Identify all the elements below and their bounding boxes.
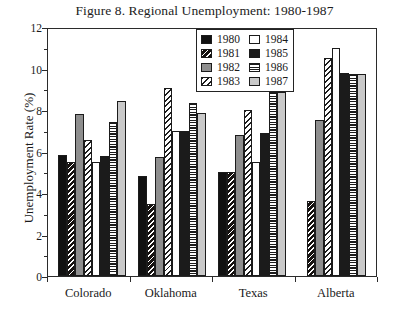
bar (277, 92, 285, 276)
legend-item-1985[interactable]: 1985 (249, 47, 288, 60)
legend-label: 1980 (217, 34, 240, 46)
bar (260, 133, 268, 276)
bar (252, 162, 260, 276)
x-tick-mark (130, 277, 131, 282)
x-tick-label: Oklahoma (130, 286, 213, 301)
bar (269, 92, 277, 276)
bar (349, 74, 357, 276)
legend-item-1987[interactable]: 1987 (249, 75, 288, 88)
bar (109, 122, 117, 276)
bar-group (292, 29, 372, 276)
legend-label: 1984 (265, 34, 288, 46)
x-tick-mark (377, 277, 378, 282)
x-axis: ColoradoOklahomaTexasAlberta (47, 277, 377, 311)
y-tick-label: 10 (31, 64, 43, 76)
x-tick-label: Colorado (47, 286, 130, 301)
legend-label: 1982 (217, 62, 240, 74)
bar (67, 162, 75, 276)
bar (147, 204, 155, 276)
bar (235, 135, 243, 276)
figure-container: Figure 8. Regional Unemployment: 1980-19… (0, 0, 409, 315)
bar (75, 114, 83, 276)
y-axis: 024681012 (0, 28, 47, 277)
chart-title: Figure 8. Regional Unemployment: 1980-19… (0, 3, 409, 19)
bar (84, 140, 92, 276)
y-tick-label: 12 (31, 22, 43, 34)
bar (117, 101, 125, 276)
legend-label: 1987 (265, 76, 288, 88)
legend-swatch-1985 (249, 49, 260, 59)
bar (100, 156, 108, 276)
legend-item-1984[interactable]: 1984 (249, 33, 288, 46)
legend-item-1980[interactable]: 1980 (201, 33, 240, 46)
legend-swatch-1986 (249, 63, 260, 73)
bar (164, 88, 172, 276)
legend[interactable]: 1980198119821983 1984198519861987 (196, 29, 294, 92)
bar (324, 58, 332, 276)
x-axis-tick-labels: ColoradoOklahomaTexasAlberta (47, 286, 377, 301)
y-tick-label: 2 (36, 230, 42, 242)
bar (189, 103, 197, 276)
bar (138, 176, 146, 276)
bar (244, 110, 252, 276)
x-tick-label: Texas (212, 286, 295, 301)
legend-item-1982[interactable]: 1982 (201, 61, 240, 74)
bar (197, 113, 205, 276)
y-tick-label: 6 (36, 147, 42, 159)
legend-item-1986[interactable]: 1986 (249, 61, 288, 74)
legend-swatch-1982 (201, 63, 212, 73)
legend-item-1981[interactable]: 1981 (201, 47, 240, 60)
bar (227, 172, 235, 276)
legend-column-left: 1980198119821983 (201, 33, 240, 88)
bar (172, 131, 180, 276)
legend-label: 1985 (265, 48, 288, 60)
bar (155, 157, 163, 276)
bar (332, 48, 340, 276)
legend-label: 1981 (217, 48, 240, 60)
bar (180, 131, 188, 276)
legend-swatch-1983 (201, 77, 212, 87)
legend-item-1983[interactable]: 1983 (201, 75, 240, 88)
bar (92, 162, 100, 276)
bar (307, 201, 315, 276)
x-tick-mark (212, 277, 213, 282)
legend-column-right: 1984198519861987 (249, 33, 288, 88)
legend-label: 1986 (265, 62, 288, 74)
y-tick-label: 0 (36, 271, 42, 283)
legend-swatch-1984 (249, 35, 260, 45)
bar-group (52, 29, 132, 276)
legend-swatch-1981 (201, 49, 212, 59)
bar (58, 155, 66, 276)
legend-label: 1983 (217, 76, 240, 88)
x-tick-mark (47, 277, 48, 282)
y-tick-label: 4 (36, 188, 42, 200)
x-tick-mark (295, 277, 296, 282)
bar (218, 172, 226, 276)
legend-swatch-1987 (249, 77, 260, 87)
bar (315, 120, 323, 276)
bar (340, 73, 348, 276)
bar (357, 74, 365, 276)
y-tick-label: 8 (36, 105, 42, 117)
x-tick-label: Alberta (295, 286, 378, 301)
legend-swatch-1980 (201, 35, 212, 45)
